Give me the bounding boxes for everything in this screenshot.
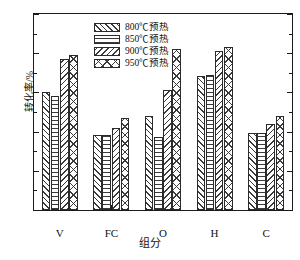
legend-swatch bbox=[94, 59, 120, 68]
legend-swatch bbox=[94, 35, 120, 44]
legend-swatch bbox=[94, 47, 120, 56]
y-tick-major-right bbox=[287, 210, 292, 211]
bar bbox=[121, 118, 130, 210]
bar bbox=[276, 116, 285, 210]
bar bbox=[172, 49, 181, 210]
legend-label: 950℃预热 bbox=[125, 59, 169, 69]
bar bbox=[154, 137, 163, 210]
bar bbox=[206, 75, 215, 210]
bar bbox=[257, 133, 266, 210]
legend-label: 800℃预热 bbox=[125, 23, 169, 33]
bar-group bbox=[248, 14, 284, 210]
legend-item: 900℃预热 bbox=[94, 46, 169, 57]
bar bbox=[51, 96, 60, 210]
bar bbox=[69, 55, 78, 210]
bar bbox=[266, 124, 275, 210]
bar bbox=[163, 90, 172, 210]
legend-item: 950℃预热 bbox=[94, 58, 169, 69]
bar-group bbox=[197, 14, 233, 210]
bar bbox=[42, 92, 51, 210]
bar bbox=[112, 128, 121, 210]
legend-label: 850℃预热 bbox=[125, 35, 169, 45]
y-tick-major bbox=[34, 210, 39, 211]
bar-chart-figure: 转化率/% 组分 020406080100 VFCOHC 800℃预热850℃预… bbox=[0, 0, 300, 260]
bar bbox=[145, 116, 154, 210]
plot-area: 020406080100 VFCOHC 800℃预热850℃预热900℃预热95… bbox=[33, 13, 293, 211]
bar bbox=[197, 76, 206, 210]
legend: 800℃预热850℃预热900℃预热950℃预热 bbox=[91, 19, 172, 72]
x-tick-label: C bbox=[236, 228, 296, 239]
bar-group bbox=[42, 14, 78, 210]
legend-item: 850℃预热 bbox=[94, 34, 169, 45]
bar bbox=[60, 59, 69, 210]
bar bbox=[224, 47, 233, 210]
bar bbox=[215, 51, 224, 210]
legend-label: 900℃预热 bbox=[125, 47, 169, 57]
bar bbox=[248, 133, 257, 210]
legend-item: 800℃预热 bbox=[94, 22, 169, 33]
bar bbox=[102, 135, 111, 210]
legend-swatch bbox=[94, 23, 120, 32]
bar bbox=[93, 135, 102, 210]
